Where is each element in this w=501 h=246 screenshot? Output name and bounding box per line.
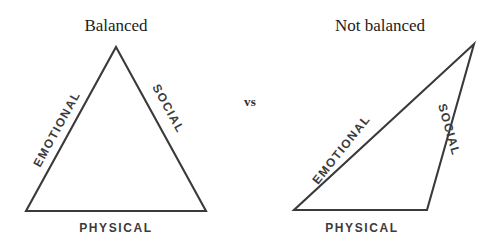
- side-label-physical-balanced: PHYSICAL: [79, 221, 152, 235]
- diagram-canvas: Balanced EMOTIONAL SOCIAL PHYSICAL vs No…: [0, 0, 501, 246]
- side-label-physical-not-balanced: PHYSICAL: [325, 221, 398, 235]
- panel-title-balanced: Balanced: [84, 16, 148, 35]
- side-label-emotional-balanced: EMOTIONAL: [30, 89, 83, 170]
- panel-balanced: Balanced EMOTIONAL SOCIAL PHYSICAL: [26, 16, 206, 235]
- comparison-diagram: Balanced EMOTIONAL SOCIAL PHYSICAL vs No…: [0, 0, 501, 246]
- side-label-emotional-not-balanced: EMOTIONAL: [309, 112, 373, 187]
- versus-separator: vs: [244, 94, 256, 109]
- side-label-social-balanced: SOCIAL: [149, 82, 187, 136]
- panel-title-not-balanced: Not balanced: [335, 16, 426, 35]
- side-label-social-not-balanced: SOCIAL: [435, 102, 463, 158]
- panel-not-balanced: Not balanced EMOTIONAL SOCIAL PHYSICAL: [294, 16, 474, 235]
